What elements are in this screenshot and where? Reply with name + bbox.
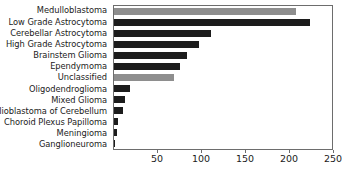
x-tick-label: 250 (324, 154, 342, 164)
bar-chart: MedulloblastomaLow Grade AstrocytomaCere… (0, 0, 342, 170)
category-label: Choroid Plexus Papilloma (0, 117, 110, 128)
bar-row (114, 127, 332, 138)
category-label: Oligodendroglioma (0, 83, 110, 94)
bars-layer (114, 6, 332, 149)
bar-row (114, 39, 332, 50)
bar (114, 107, 123, 114)
bar-row (114, 17, 332, 28)
bar-row (114, 94, 332, 105)
bar-row (114, 72, 332, 83)
x-tick-label: 50 (151, 154, 163, 164)
bar (114, 140, 115, 147)
category-label: Glioblastoma of Cerebellum (0, 105, 110, 116)
bar-row (114, 83, 332, 94)
bar (114, 63, 180, 70)
plot-area (113, 5, 333, 150)
bar-row (114, 28, 332, 39)
category-label: Meningioma (0, 128, 110, 139)
bar (114, 19, 310, 26)
bar (114, 129, 117, 136)
bar (114, 118, 118, 125)
bar (114, 41, 199, 48)
category-label: Unclassified (0, 72, 110, 83)
category-label: High Grade Astrocytoma (0, 38, 110, 49)
category-label: Ganglioneuroma (0, 139, 110, 150)
bar-row (114, 116, 332, 127)
bar (114, 30, 211, 37)
bar-row (114, 105, 332, 116)
category-label: Cerebellar Astrocytoma (0, 27, 110, 38)
bar-row (114, 61, 332, 72)
bar-row (114, 50, 332, 61)
category-label: Medulloblastoma (0, 5, 110, 16)
x-tick-label: 200 (280, 154, 298, 164)
bar (114, 74, 174, 81)
bar (114, 52, 187, 59)
x-tick-label: 100 (192, 154, 210, 164)
x-tick-label: 150 (236, 154, 254, 164)
category-label: Ependymoma (0, 61, 110, 72)
category-label: Brainstem Glioma (0, 50, 110, 61)
bar (114, 96, 125, 103)
category-axis-labels: MedulloblastomaLow Grade AstrocytomaCere… (0, 5, 110, 150)
bar-row (114, 138, 332, 149)
category-label: Low Grade Astrocytoma (0, 16, 110, 27)
category-label: Mixed Glioma (0, 94, 110, 105)
bar (114, 85, 130, 92)
bar (114, 8, 296, 15)
bar-row (114, 6, 332, 17)
